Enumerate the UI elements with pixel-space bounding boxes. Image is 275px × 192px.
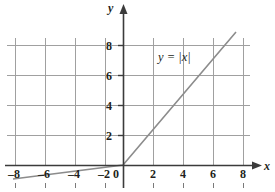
graph-canvas xyxy=(0,0,275,192)
graph-figure: –8 –6 –4 –2 0 2 4 6 8 2 4 6 8 y x y = |x… xyxy=(0,0,275,192)
x-tick-label-4: 4 xyxy=(180,167,186,182)
x-tick-label-neg4: –4 xyxy=(68,167,80,182)
equation-annotation: y = |x| xyxy=(158,50,191,65)
y-tick-label-6: 6 xyxy=(106,69,112,84)
x-tick-label-neg6: –6 xyxy=(38,167,50,182)
x-tick-label-origin: 0 xyxy=(113,167,119,182)
x-tick-label-neg8: –8 xyxy=(8,167,20,182)
x-tick-label-6: 6 xyxy=(210,167,216,182)
x-tick-label-2: 2 xyxy=(150,167,156,182)
y-tick-label-8: 8 xyxy=(106,39,112,54)
y-tick-label-4: 4 xyxy=(106,99,112,114)
x-tick-label-8: 8 xyxy=(240,167,246,182)
y-axis-arrow-icon xyxy=(120,4,128,14)
y-tick-label-2: 2 xyxy=(106,129,112,144)
y-axis-label: y xyxy=(108,1,113,16)
x-tick-marks xyxy=(16,183,244,188)
vertical-gridlines xyxy=(16,38,244,165)
x-tick-label-neg2: –2 xyxy=(98,167,110,182)
x-axis-label: x xyxy=(264,159,270,174)
x-axis-arrow-icon xyxy=(252,162,262,170)
y-tick-marks xyxy=(118,46,124,136)
